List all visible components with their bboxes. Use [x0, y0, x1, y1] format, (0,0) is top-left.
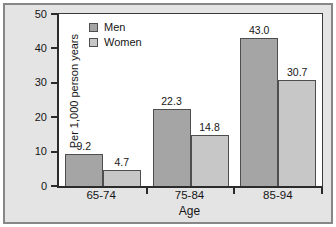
y-tick-mark [51, 151, 57, 153]
legend-swatch-icon [89, 38, 98, 47]
y-tick-label: 10 [23, 146, 47, 157]
x-axis-label: Age [57, 204, 322, 218]
bar-value-label: 9.2 [77, 140, 92, 152]
legend-label: Men [104, 21, 125, 33]
legend-swatch-icon [89, 23, 98, 32]
y-tick-label: 20 [23, 112, 47, 123]
bar-value-label: 43.0 [249, 24, 269, 36]
bar-value-label: 14.8 [199, 121, 219, 133]
legend: MenWomen [89, 21, 142, 48]
y-tick-mark [51, 13, 57, 15]
y-tick-mark [51, 116, 57, 118]
y-tick-label: 0 [23, 181, 47, 192]
y-tick-mark [51, 82, 57, 84]
bar-value-label: 22.3 [161, 95, 181, 107]
bar-men: 9.2 [65, 154, 103, 186]
legend-item: Women [89, 36, 142, 48]
bar-men: 43.0 [240, 38, 278, 186]
y-tick-label: 50 [23, 9, 47, 20]
y-tick-label: 40 [23, 43, 47, 54]
legend-label: Women [104, 36, 142, 48]
x-category-label: 75-84 [145, 189, 233, 201]
bar-value-label: 30.7 [287, 66, 307, 78]
x-category-labels: 65-7475-8485-94 [57, 189, 322, 201]
bar-group: 43.030.7 [234, 14, 322, 186]
bar-women: 30.7 [278, 80, 316, 186]
x-category-label: 65-74 [57, 189, 145, 201]
bar-women: 14.8 [191, 135, 229, 186]
y-tick-label: 30 [23, 77, 47, 88]
bar-group: 22.314.8 [147, 14, 235, 186]
bar-women: 4.7 [103, 170, 141, 186]
plot-area: Per 1,000 person years 9.24.722.314.843.… [57, 13, 323, 188]
y-tick-mark [51, 185, 57, 187]
bar-men: 22.3 [153, 109, 191, 186]
bar-value-label: 4.7 [115, 156, 130, 168]
chart-figure: Per 1,000 person years 9.24.722.314.843.… [3, 3, 333, 224]
legend-item: Men [89, 21, 142, 33]
x-category-label: 85-94 [234, 189, 322, 201]
y-tick-mark [51, 47, 57, 49]
